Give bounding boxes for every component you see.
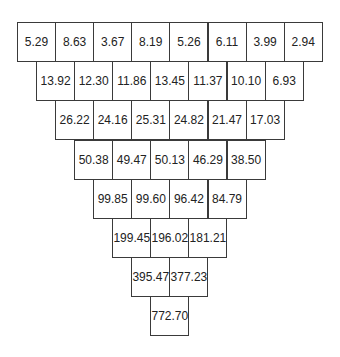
pyramid-cell: 3.67 [93, 22, 132, 62]
pyramid-cell: 38.50 [227, 140, 266, 180]
pyramid-cell: 11.86 [112, 61, 151, 101]
pyramid-cell: 24.16 [93, 100, 132, 140]
pyramid-cell: 84.79 [208, 179, 247, 219]
pyramid-cell: 8.19 [131, 22, 170, 62]
pyramid-cell: 21.47 [208, 100, 247, 140]
pyramid-cell: 99.85 [93, 179, 132, 219]
pyramid-cell: 5.26 [169, 22, 208, 62]
pyramid-cell: 181.21 [188, 218, 227, 258]
pyramid-cell: 6.11 [208, 22, 247, 62]
pyramid-cell: 50.38 [74, 140, 113, 180]
pyramid-cell: 772.70 [150, 296, 189, 336]
pyramid-cell: 99.60 [131, 179, 170, 219]
pyramid-cell: 24.82 [169, 100, 208, 140]
pyramid-cell: 5.29 [17, 22, 56, 62]
pyramid-cell: 10.10 [227, 61, 266, 101]
pyramid-cell: 377.23 [169, 257, 208, 297]
pyramid-cell: 49.47 [112, 140, 151, 180]
pyramid-cell: 196.02 [150, 218, 189, 258]
pyramid-cell: 199.45 [112, 218, 151, 258]
pyramid-cell: 17.03 [246, 100, 285, 140]
pyramid-cell: 13.92 [36, 61, 75, 101]
pyramid-cell: 8.63 [55, 22, 94, 62]
pyramid-cell: 96.42 [169, 179, 208, 219]
pyramid-cell: 395.47 [131, 257, 170, 297]
pyramid-cell: 3.99 [246, 22, 285, 62]
number-pyramid: 5.298.633.678.195.266.113.992.9413.9212.… [0, 0, 340, 357]
pyramid-cell: 11.37 [188, 61, 227, 101]
pyramid-cell: 26.22 [55, 100, 94, 140]
pyramid-cell: 50.13 [150, 140, 189, 180]
pyramid-cell: 13.45 [150, 61, 189, 101]
pyramid-cell: 6.93 [265, 61, 304, 101]
pyramid-cell: 46.29 [188, 140, 227, 180]
pyramid-cell: 2.94 [284, 22, 323, 62]
pyramid-cell: 12.30 [74, 61, 113, 101]
pyramid-cell: 25.31 [131, 100, 170, 140]
